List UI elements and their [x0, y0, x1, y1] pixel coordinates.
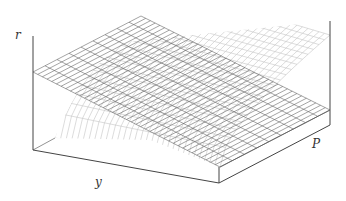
plot-canvas	[0, 0, 346, 201]
p-axis-label: P	[312, 137, 320, 151]
y-axis-line	[33, 150, 219, 183]
surface-plot-figure: r y P	[0, 0, 346, 201]
y-axis-label: y	[95, 175, 102, 189]
curved-surface	[55, 0, 330, 167]
r-axis-label: r	[15, 28, 21, 42]
box-front-edges	[33, 21, 330, 183]
box-back-edges	[33, 138, 55, 150]
